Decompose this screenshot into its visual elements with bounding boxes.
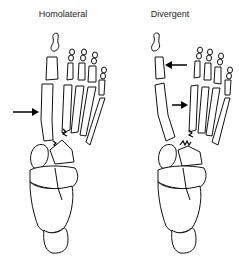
foot-homolateral <box>13 33 107 253</box>
foot-divergent <box>152 33 233 253</box>
foot-diagram <box>0 0 239 264</box>
